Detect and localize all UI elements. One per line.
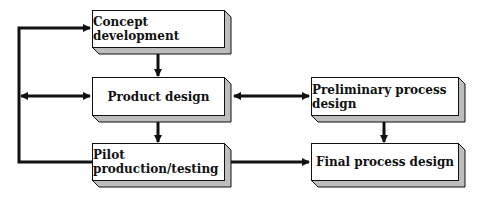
node-label: Final process design [316,155,454,169]
node-concept-development: Concept development [92,10,225,48]
node-label: Concept development [93,15,224,43]
node-final-process-design: Final process design [311,143,459,181]
node-pilot-production: Pilot production/testing [92,143,225,181]
node-label: Pilot production/testing [93,148,224,176]
node-label: Product design [108,90,210,104]
node-preliminary-process-design: Preliminary process design [311,77,459,116]
node-product-design: Product design [92,77,225,116]
node-label: Preliminary process design [312,83,458,111]
